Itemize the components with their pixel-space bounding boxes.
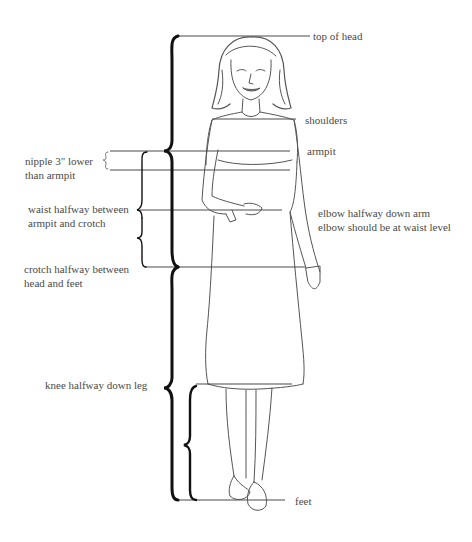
label-crotch-2: head and feet — [24, 276, 83, 290]
label-knee: knee halfway down leg — [45, 378, 147, 392]
label-waist-2: armpit and crotch — [28, 216, 106, 230]
label-elbow-2: elbow should be at waist level — [318, 220, 451, 234]
label-armpit: armpit — [307, 144, 336, 158]
label-feet: feet — [295, 494, 311, 508]
proportion-diagram: top of head shoulders armpit nipple 3" l… — [0, 0, 472, 542]
label-nipple-1: nipple 3" lower — [25, 154, 93, 168]
label-top-of-head: top of head — [313, 29, 362, 43]
guide-lines — [110, 36, 310, 500]
woman-figure-icon — [202, 37, 320, 510]
label-elbow-1: elbow halfway down arm — [318, 206, 430, 220]
brace-crotch-to-feet-icon — [164, 267, 178, 500]
brace-armpit-to-waist-icon — [137, 152, 147, 218]
brace-waist-to-crotch-icon — [137, 218, 146, 267]
brace-knee-to-feet-icon — [184, 386, 196, 500]
brace-nipple-icon — [103, 152, 108, 169]
label-shoulders: shoulders — [305, 113, 347, 127]
label-crotch-1: crotch halfway between — [24, 262, 129, 276]
label-nipple-2: than armpit — [25, 168, 75, 182]
label-waist-1: waist halfway between — [28, 202, 129, 216]
